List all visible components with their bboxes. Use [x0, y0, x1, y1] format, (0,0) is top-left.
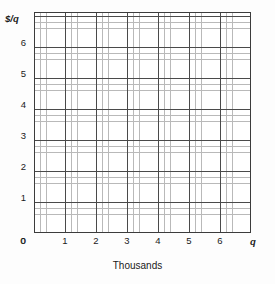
y-tick-label-1: 1 [4, 193, 26, 203]
y-tick-label-5: 5 [4, 69, 26, 79]
y-axis-title: $/q [5, 13, 19, 24]
x-tick-label-1: 1 [54, 236, 76, 246]
y-tick-label-3: 3 [4, 131, 26, 141]
graph-paper-figure: $/q 6 5 4 3 2 1 0 0 1 2 3 4 5 6 q Thousa… [0, 0, 275, 284]
x-tick-label-2: 2 [85, 236, 107, 246]
x-axis-variable-symbol: q [250, 236, 256, 247]
x-tick-label-0: 0 [12, 236, 34, 246]
x-tick-label-6: 6 [209, 236, 231, 246]
y-tick-label-6: 6 [4, 38, 26, 48]
x-tick-label-3: 3 [116, 236, 138, 246]
x-axis-title: Thousands [0, 260, 275, 271]
plot-grid-area[interactable] [34, 12, 251, 233]
x-tick-label-4: 4 [147, 236, 169, 246]
y-tick-label-4: 4 [4, 100, 26, 110]
x-tick-label-5: 5 [178, 236, 200, 246]
y-tick-label-2: 2 [4, 162, 26, 172]
